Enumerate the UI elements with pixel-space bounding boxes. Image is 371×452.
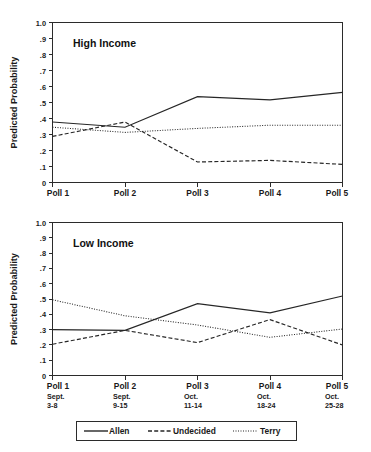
bottom-x-ticks bbox=[53, 376, 343, 380]
x-tick-label: Poll 1 bbox=[47, 188, 70, 198]
panel-low-income: 1.0 .9 .8 .7 .6 .5 .4 .3 .2 .1 0 Predict… bbox=[9, 219, 349, 410]
x-tick-label: Poll 2 bbox=[114, 188, 137, 198]
x-tick-sublabel: 11-14 bbox=[184, 401, 202, 410]
bottom-y-axis-title: Predicted Probability bbox=[9, 252, 19, 345]
y-tick-label: .6 bbox=[40, 83, 46, 92]
y-tick-label: .6 bbox=[40, 280, 46, 289]
y-tick-label: .4 bbox=[40, 115, 47, 124]
y-tick-label: .3 bbox=[40, 131, 46, 140]
x-tick-sublabel: 18-24 bbox=[257, 401, 275, 410]
y-tick-label: 0 bbox=[42, 179, 46, 188]
bottom-series-allen bbox=[53, 296, 343, 330]
y-tick-label: .8 bbox=[40, 51, 46, 60]
x-tick-label: Poll 3 bbox=[186, 188, 209, 198]
legend-label-undecided: Undecided bbox=[173, 426, 216, 436]
y-tick-label: .3 bbox=[40, 326, 46, 335]
x-tick-label: Poll 5 bbox=[326, 381, 349, 391]
x-tick-sublabel: Sept. bbox=[47, 392, 65, 401]
bottom-y-tick-labels: 1.0 .9 .8 .7 .6 .5 .4 .3 .2 .1 0 bbox=[36, 219, 47, 381]
x-tick-label: Poll 5 bbox=[326, 188, 349, 198]
x-tick-sublabel: 3-8 bbox=[47, 401, 57, 410]
top-series-allen bbox=[53, 92, 343, 127]
bottom-x-tick-labels: Poll 1 Poll 2 Poll 3 Poll 4 Poll 5 bbox=[47, 381, 349, 391]
y-tick-label: .1 bbox=[40, 163, 46, 172]
bottom-y-ticks bbox=[49, 223, 53, 376]
y-tick-label: .7 bbox=[40, 264, 46, 273]
y-tick-label: .2 bbox=[40, 147, 46, 156]
y-tick-label: .5 bbox=[40, 99, 46, 108]
legend-label-allen: Allen bbox=[109, 426, 129, 436]
x-tick-label: Poll 4 bbox=[259, 188, 282, 198]
top-series-terry bbox=[53, 125, 343, 132]
x-tick-sublabel: Oct. bbox=[325, 392, 339, 401]
x-tick-sublabel: Oct. bbox=[184, 392, 198, 401]
top-x-ticks bbox=[53, 183, 343, 187]
y-tick-label: .9 bbox=[40, 35, 46, 44]
y-tick-label: .9 bbox=[40, 234, 46, 243]
y-tick-label: .8 bbox=[40, 249, 46, 258]
x-tick-label: Poll 3 bbox=[186, 381, 209, 391]
top-y-ticks bbox=[49, 23, 53, 183]
x-tick-label: Poll 1 bbox=[47, 381, 70, 391]
y-tick-label: 1.0 bbox=[36, 219, 46, 228]
bottom-panel-title: Low Income bbox=[73, 237, 134, 249]
y-tick-label: 1.0 bbox=[36, 19, 46, 28]
panel-high-income: 1.0 .9 .8 .7 .6 .5 .4 .3 .2 .1 0 Predict… bbox=[9, 19, 349, 199]
x-tick-sublabel: Sept. bbox=[113, 392, 131, 401]
top-y-axis-title: Predicted Probability bbox=[9, 56, 19, 149]
y-tick-label: 0 bbox=[42, 372, 46, 381]
bottom-x-tick-sublabels-month: Sept. Sept. Oct. Oct. Oct. bbox=[47, 392, 339, 401]
x-tick-sublabel: 25-28 bbox=[325, 401, 343, 410]
bottom-series-terry bbox=[53, 300, 343, 338]
y-tick-label: .4 bbox=[40, 310, 47, 319]
x-tick-sublabel: 9-15 bbox=[113, 401, 127, 410]
legend-label-terry: Terry bbox=[260, 426, 281, 436]
y-tick-label: .7 bbox=[40, 67, 46, 76]
y-tick-label: .2 bbox=[40, 341, 46, 350]
top-x-tick-labels: Poll 1 Poll 2 Poll 3 Poll 4 Poll 5 bbox=[47, 188, 349, 198]
figure-container: 1.0 .9 .8 .7 .6 .5 .4 .3 .2 .1 0 Predict… bbox=[0, 0, 371, 452]
two-panel-line-chart: 1.0 .9 .8 .7 .6 .5 .4 .3 .2 .1 0 Predict… bbox=[0, 0, 371, 452]
y-tick-label: .5 bbox=[40, 295, 46, 304]
top-y-tick-labels: 1.0 .9 .8 .7 .6 .5 .4 .3 .2 .1 0 bbox=[36, 19, 47, 188]
x-tick-label: Poll 4 bbox=[259, 381, 282, 391]
bottom-x-tick-sublabels-days: 3-8 9-15 11-14 18-24 25-28 bbox=[47, 401, 343, 410]
bottom-series-undecided bbox=[53, 320, 343, 345]
x-tick-label: Poll 2 bbox=[114, 381, 137, 391]
x-tick-sublabel: Oct. bbox=[257, 392, 271, 401]
y-tick-label: .1 bbox=[40, 356, 46, 365]
legend: Allen Undecided Terry bbox=[77, 422, 297, 441]
top-panel-title: High Income bbox=[73, 37, 136, 49]
